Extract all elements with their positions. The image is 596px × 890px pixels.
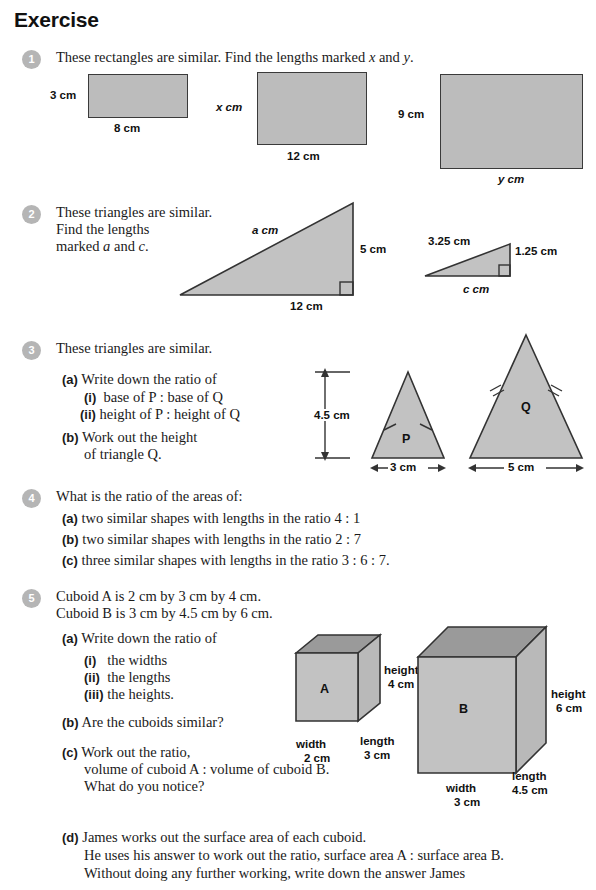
question-number-2: 2 [22, 205, 41, 224]
question-3-part-a-label: (a) [62, 372, 78, 387]
question-5-stem-line2: Cuboid B is 3 cm by 4.5 cm by 6 cm. [56, 605, 273, 622]
question-3-part-a: (a) Write down the ratio of [62, 371, 217, 388]
question-5-part-i-text: the widths [107, 652, 167, 668]
rectangle-small [88, 74, 188, 118]
rectangle-mid-height-label: x cm [216, 101, 242, 113]
question-2-stem-line3: marked a and c. [56, 238, 149, 255]
question-5-part-c-line3: What do you notice? [84, 778, 204, 795]
question-5-part-d-line2: He uses his answer to work out the ratio… [84, 847, 504, 864]
cuboid-a-width-label-line1: width [296, 738, 326, 750]
rectangle-mid-base-label: 12 cm [287, 150, 320, 162]
cuboid-a-length-label-line1: length [360, 735, 395, 747]
question-5-part-b-label: (b) [62, 715, 79, 730]
cuboid-b-width-label-line1: width [446, 782, 476, 794]
question-3-part-i: (i) base of P : base of Q [84, 389, 223, 406]
question-5-part-iii: (iii) the heights. [84, 686, 174, 703]
question-5-part-a-label: (a) [62, 631, 78, 646]
rectangle-large [440, 74, 583, 169]
question-4-part-a-label: (a) [62, 511, 78, 526]
question-4-stem: What is the ratio of the areas of: [56, 488, 242, 505]
triangle-p [370, 370, 470, 462]
question-number-1: 1 [22, 50, 41, 69]
question-3-part-b-line2: of triangle Q. [84, 446, 162, 463]
rectangle-small-base-label: 8 cm [114, 122, 140, 134]
triangle-large-hyp-label: a cm [252, 224, 278, 236]
exercise-page: Exercise 1 These rectangles are similar.… [0, 0, 596, 890]
triangle-large-q2 [180, 198, 380, 308]
question-number-3: 3 [22, 341, 41, 360]
question-5-part-b-text: Are the cuboids similar? [81, 714, 223, 730]
triangle-large-hyp-text: a cm [252, 224, 278, 236]
cuboid-a [290, 625, 400, 745]
question-5-part-c-label: (c) [62, 745, 78, 760]
rectangle-small-height-label: 3 cm [50, 89, 76, 101]
question-3-part-i-label: (i) [84, 390, 96, 405]
question-5-part-d-line3: Without doing any further working, write… [84, 865, 465, 882]
question-5-part-a: (a) Write down the ratio of [62, 630, 217, 647]
question-3-part-b-text-line1: Work out the height [82, 429, 197, 445]
triangle-q-base-label: 5 cm [508, 461, 534, 473]
cuboid-b-letter: B [459, 702, 468, 716]
triangle-small-base-label: c cm [463, 283, 489, 295]
triangle-p-letter: P [402, 432, 410, 446]
page-title: Exercise [14, 8, 99, 32]
rectangle-mid [257, 72, 367, 145]
rectangle-large-base-text: y cm [498, 173, 524, 185]
cuboid-a-length-label-line2: 3 cm [364, 749, 390, 761]
triangle-large-base-label: 12 cm [290, 300, 323, 312]
question-5-part-d-line1: James works out the surface area of each… [82, 829, 366, 845]
cuboid-a-width-label-line2: 2 cm [304, 752, 330, 764]
rectangle-mid-height-text: x cm [216, 101, 242, 113]
question-2-stem-line2: Find the lengths [56, 221, 149, 238]
cuboid-a-letter: A [320, 682, 329, 696]
question-5-part-d: (d) James works out the surface area of … [62, 829, 366, 846]
triangle-p-height-label: 4.5 cm [312, 409, 352, 421]
question-number-5: 5 [22, 589, 41, 608]
cuboid-b-height-label-line2: 6 cm [556, 702, 582, 714]
question-3-part-b-label: (b) [62, 430, 79, 445]
question-5-part-a-text: Write down the ratio of [81, 630, 217, 646]
question-4-part-c: (c) three similar shapes with lengths in… [62, 552, 390, 569]
cuboid-b-height-label-line1: height [551, 688, 586, 700]
triangle-small-vertical-label: 1.25 cm [515, 245, 557, 257]
triangle-q [468, 333, 596, 462]
question-4-part-b: (b) two similar shapes with lengths in t… [62, 531, 361, 548]
question-5-part-c-line1: Work out the ratio, [81, 744, 190, 760]
triangle-p-base-label: 3 cm [390, 461, 416, 473]
question-5-part-c-line2: volume of cuboid A : volume of cuboid B. [84, 761, 329, 778]
triangle-small-hyp-label: 3.25 cm [428, 235, 470, 247]
question-4-part-c-text: three similar shapes with lengths in the… [82, 552, 390, 568]
question-5-stem-line1: Cuboid A is 2 cm by 3 cm by 4 cm. [56, 588, 261, 605]
question-3-part-ii-label: (ii) [80, 407, 96, 422]
question-3-part-i-text: base of P : base of Q [104, 389, 223, 405]
cuboid-b-width-label-line2: 3 cm [454, 796, 480, 808]
question-3-part-a-text: Write down the ratio of [81, 371, 217, 387]
question-5-part-d-label: (d) [62, 830, 79, 845]
question-4-part-c-label: (c) [62, 553, 78, 568]
triangle-large-vertical-label: 5 cm [360, 243, 386, 255]
rectangle-large-height-label: 9 cm [398, 108, 424, 120]
question-4-part-b-text: two similar shapes with lengths in the r… [82, 531, 361, 547]
question-3-stem: These triangles are similar. [56, 340, 212, 357]
cuboid-b-length-label-line1: length [512, 770, 547, 782]
question-4-part-a: (a) two similar shapes with lengths in t… [62, 510, 360, 527]
question-4-part-b-label: (b) [62, 532, 79, 547]
triangle-q-letter: Q [521, 400, 531, 414]
question-5-part-b: (b) Are the cuboids similar? [62, 714, 224, 731]
question-3-part-ii-text: height of P : height of Q [100, 406, 240, 422]
rectangle-large-base-label: y cm [498, 173, 524, 185]
question-3-part-ii: (ii) height of P : height of Q [80, 406, 240, 423]
question-5-part-iii-text: the heights. [107, 686, 174, 702]
question-5-part-iii-label: (iii) [84, 687, 104, 702]
question-5-part-ii-label: (ii) [84, 670, 100, 685]
triangle-p-base-arrow [370, 461, 470, 477]
cuboid-b [410, 615, 560, 795]
question-5-part-c: (c) Work out the ratio, [62, 744, 190, 761]
question-1-stem: These rectangles are similar. Find the l… [56, 49, 414, 66]
question-5-part-ii: (ii) the lengths [84, 669, 170, 686]
question-4-part-a-text: two similar shapes with lengths in the r… [82, 510, 361, 526]
question-5-part-i: (i) the widths [84, 652, 167, 669]
triangle-small-base-text: c cm [463, 283, 489, 295]
question-number-4: 4 [22, 489, 41, 508]
question-3-part-b: (b) Work out the height [62, 429, 197, 446]
